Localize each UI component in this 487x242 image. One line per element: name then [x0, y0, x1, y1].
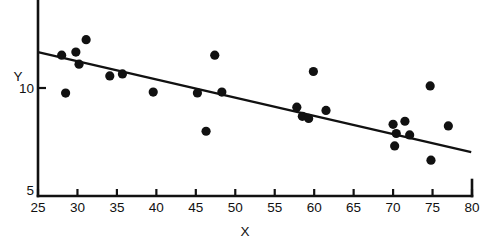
- data-point: [405, 130, 414, 139]
- axes-group: [38, 0, 472, 196]
- data-point: [426, 156, 435, 165]
- y-tick-label: 5: [26, 183, 34, 198]
- data-point: [321, 106, 330, 115]
- data-point: [217, 87, 226, 96]
- data-point: [210, 51, 219, 60]
- x-tick-label: 55: [267, 200, 282, 215]
- x-tick-label: 60: [307, 200, 322, 215]
- data-point: [57, 51, 66, 60]
- x-tick-label: 65: [346, 200, 361, 215]
- data-point: [392, 129, 401, 138]
- data-point: [105, 71, 114, 80]
- data-point: [71, 47, 80, 56]
- data-point: [390, 141, 399, 150]
- data-point: [304, 114, 313, 123]
- data-point: [292, 103, 301, 112]
- y-axis-tick-labels: 510: [19, 81, 34, 198]
- data-point: [118, 69, 127, 78]
- data-point: [426, 81, 435, 90]
- data-point: [149, 87, 158, 96]
- x-tick-label: 25: [30, 200, 45, 215]
- x-tick-label: 45: [188, 200, 203, 215]
- data-point: [388, 120, 397, 129]
- x-axis-label: X: [240, 224, 249, 239]
- y-axis-label: Y: [13, 69, 22, 84]
- data-points-group: [57, 35, 453, 165]
- x-tick-label: 50: [228, 200, 243, 215]
- x-axis-tick-labels: 253035404550556065707580: [30, 200, 479, 215]
- data-point: [82, 35, 91, 44]
- data-point: [193, 88, 202, 97]
- scatter-plot-figure: 253035404550556065707580 510 X Y: [0, 0, 487, 242]
- data-point: [309, 67, 318, 76]
- data-point: [74, 60, 83, 69]
- x-tick-label: 80: [464, 200, 479, 215]
- x-tick-label: 30: [70, 200, 85, 215]
- x-tick-label: 40: [149, 200, 164, 215]
- x-tick-label: 75: [425, 200, 440, 215]
- data-point: [400, 117, 409, 126]
- data-point: [444, 121, 453, 130]
- chart-canvas: 253035404550556065707580 510 X Y: [0, 0, 487, 242]
- x-tick-label: 35: [109, 200, 124, 215]
- data-point: [61, 89, 70, 98]
- data-point: [201, 127, 210, 136]
- x-tick-label: 70: [386, 200, 401, 215]
